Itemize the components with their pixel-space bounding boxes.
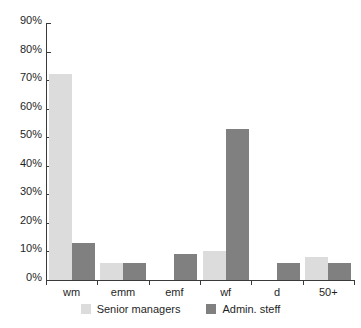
bar-chart: 0%10%20%30%40%50%60%70%80%90% wmemmemfwf… [0, 0, 361, 328]
legend-item[interactable]: Admin. steff [206, 303, 280, 315]
x-axis-tick-mark [200, 280, 201, 285]
bar[interactable] [123, 263, 146, 280]
y-axis-tick-label: 60% [20, 101, 42, 112]
bar[interactable] [72, 243, 95, 280]
x-axis-tick-mark [251, 280, 252, 285]
y-axis-tick-label: 90% [20, 15, 42, 26]
bar-group [200, 23, 251, 280]
x-axis-label: emf [149, 286, 200, 299]
bar[interactable] [328, 263, 351, 280]
y-axis-tick: 40% [0, 166, 52, 167]
bar-group [303, 23, 354, 280]
y-axis-tick-label: 70% [20, 72, 42, 83]
legend-label: Admin. steff [222, 303, 280, 315]
y-axis-tick: 50% [0, 137, 52, 138]
y-axis-tick-label: 80% [20, 44, 42, 55]
y-axis-tick: 0% [0, 280, 52, 281]
y-axis-tick-label: 0% [26, 272, 42, 283]
x-axis-labels: wmemmemfwfd50+ [46, 286, 354, 299]
y-axis-tick: 70% [0, 80, 52, 81]
x-axis-tick-mark [46, 280, 47, 285]
x-axis-label: 50+ [303, 286, 354, 299]
x-axis-tick-mark [303, 280, 304, 285]
y-axis-tick-label: 50% [20, 129, 42, 140]
y-axis-tick-label: 40% [20, 158, 42, 169]
legend-swatch-icon [206, 304, 216, 314]
x-axis-label: d [251, 286, 302, 299]
bar-group [251, 23, 302, 280]
x-axis-label: wf [200, 286, 251, 299]
y-axis-tick: 20% [0, 223, 52, 224]
bar[interactable] [305, 257, 328, 280]
y-axis-tick-label: 20% [20, 215, 42, 226]
chart-legend: Senior managersAdmin. steff [0, 303, 361, 315]
x-axis-tick-mark [97, 280, 98, 285]
y-axis-tick: 90% [0, 23, 52, 24]
legend-label: Senior managers [97, 303, 181, 315]
bar[interactable] [203, 251, 226, 280]
y-axis-tick: 30% [0, 194, 52, 195]
x-axis-label: wm [46, 286, 97, 299]
bar[interactable] [174, 254, 197, 280]
y-axis-tick-label: 10% [20, 243, 42, 254]
y-axis-tick: 10% [0, 251, 52, 252]
y-axis-tick: 80% [0, 52, 52, 53]
x-axis-tick-mark [354, 280, 355, 285]
legend-swatch-icon [81, 304, 91, 314]
bar[interactable] [277, 263, 300, 280]
x-axis-label: emm [97, 286, 148, 299]
bar-group [46, 23, 97, 280]
bar[interactable] [226, 129, 249, 280]
y-axis-tick-label: 30% [20, 186, 42, 197]
y-axis-tick: 60% [0, 109, 52, 110]
legend-item[interactable]: Senior managers [81, 303, 181, 315]
bar-group [149, 23, 200, 280]
bar[interactable] [100, 263, 123, 280]
bar-groups [46, 23, 354, 280]
x-axis-tick-mark [149, 280, 150, 285]
bar-group [97, 23, 148, 280]
bar[interactable] [49, 74, 72, 280]
